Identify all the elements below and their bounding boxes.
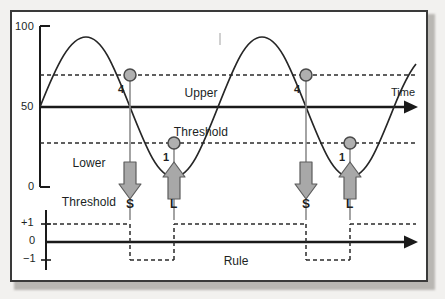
marker-label-4-cycle2: 4 [294, 84, 300, 96]
rule-tick-minus1: −1 [23, 253, 36, 265]
up-arrow-l1 [163, 162, 185, 199]
signal-label-s-2: S [302, 198, 310, 211]
rule-output-title: Rule Output [200, 230, 272, 282]
y-tick-0: 0 [28, 181, 34, 193]
marker-label-4-cycle1: 4 [118, 84, 124, 96]
crossing-marker-lower-2 [344, 137, 356, 149]
crossing-marker-upper-1 [124, 69, 136, 81]
up-arrow-l2 [339, 162, 361, 199]
rule-tick-plus1: +1 [21, 217, 34, 229]
down-arrow-s2 [295, 162, 317, 199]
y-tick-100: 100 [15, 21, 34, 33]
upper-threshold-label-line2: Threshold [158, 126, 244, 139]
lower-threshold-label-line1: Lower [44, 157, 134, 170]
figure-root: 100 50 0 Upper Threshold Lower Threshold… [0, 0, 445, 299]
figure-frame: 100 50 0 Upper Threshold Lower Threshold… [10, 10, 428, 282]
marker-label-1-cycle1: 1 [163, 152, 169, 164]
marker-label-1-cycle2: 1 [339, 152, 345, 164]
lower-threshold-label-line2: Threshold [44, 196, 134, 209]
upper-threshold-label: Upper Threshold [158, 62, 244, 164]
y-tick-50: 50 [21, 101, 34, 113]
signal-label-l-1: L [170, 198, 177, 211]
signal-label-l-2: L [346, 198, 353, 211]
upper-threshold-label-line1: Upper [158, 87, 244, 100]
time-axis-label: Time [391, 87, 415, 99]
rule-tick-zero: 0 [29, 235, 35, 247]
rule-output-title-line1: Rule [200, 255, 272, 268]
lower-threshold-label: Lower Threshold [44, 132, 134, 234]
signal-label-s-1: S [126, 198, 134, 211]
crossing-marker-upper-2 [300, 69, 312, 81]
